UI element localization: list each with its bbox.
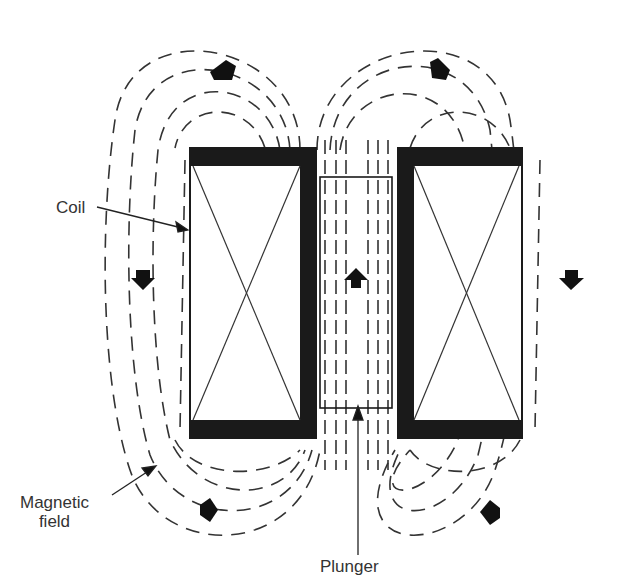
solenoid-diagram bbox=[0, 0, 617, 585]
arrow-up-left-icon bbox=[210, 60, 236, 80]
magnetic-field-label-line2: field bbox=[20, 512, 89, 531]
arrow-left-icon bbox=[480, 500, 500, 525]
arrow-up-right-icon bbox=[430, 58, 450, 80]
coil-label: Coil bbox=[56, 198, 85, 217]
plunger-label: Plunger bbox=[320, 557, 379, 576]
plunger bbox=[320, 177, 392, 408]
arrow-down-icon bbox=[559, 270, 584, 290]
left-coil bbox=[190, 148, 316, 438]
right-coil bbox=[398, 148, 522, 438]
arrow-up-icon bbox=[344, 268, 368, 288]
arrow-down-icon bbox=[131, 270, 155, 290]
magnetic-field-label-line1: Magnetic bbox=[20, 493, 89, 512]
magnetic-field-label: Magnetic field bbox=[20, 493, 89, 531]
arrow-right-icon bbox=[200, 498, 218, 522]
